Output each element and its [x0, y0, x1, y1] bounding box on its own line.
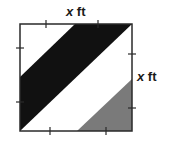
right-side-length-label: x ft	[137, 69, 157, 84]
right-variable: x	[137, 69, 144, 84]
right-unit: ft	[148, 69, 157, 84]
top-variable: x	[66, 4, 73, 19]
top-side-length-label: x ft	[66, 4, 86, 19]
top-unit: ft	[77, 4, 86, 19]
gray-triangle-region	[77, 79, 132, 131]
